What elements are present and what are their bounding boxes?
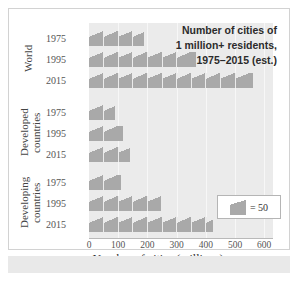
x-axis-line xyxy=(89,238,273,239)
pictograph-divider xyxy=(103,105,104,120)
pictograph-notch xyxy=(104,73,119,79)
group-label-line: World xyxy=(23,27,35,90)
year-label-2015: 2015 xyxy=(40,75,66,86)
pictograph-divider xyxy=(103,73,104,88)
pictograph-notch xyxy=(104,105,119,111)
year-label-2015: 2015 xyxy=(40,219,66,230)
pictograph-notch xyxy=(133,196,148,202)
pictograph-divider xyxy=(191,73,192,88)
pictograph-divider xyxy=(103,31,104,46)
pictograph-notch xyxy=(118,147,133,153)
group-label-world: World xyxy=(23,27,35,90)
year-label-2015: 2015 xyxy=(40,149,66,160)
year-label-1995: 1995 xyxy=(40,128,66,139)
table-row xyxy=(89,217,213,232)
pictograph-divider xyxy=(118,196,119,211)
pictograph-notch xyxy=(206,73,221,79)
pictograph-divider xyxy=(118,217,119,232)
group-label-developing-countries: Developingcountries xyxy=(19,171,42,234)
pictograph-divider xyxy=(118,73,119,88)
pictograph-notch xyxy=(235,73,250,79)
pictograph-notch xyxy=(133,73,148,79)
legend: = 50 xyxy=(217,195,281,219)
pictograph-notch xyxy=(89,147,104,153)
pictograph-divider xyxy=(220,73,221,88)
pictograph-notch xyxy=(162,217,177,223)
chart-title: Number of cities of 1 million+ residents… xyxy=(115,23,277,69)
chart-screenshot: = 50 World197519952015Developedcountries… xyxy=(0,0,298,281)
pictograph-notch xyxy=(191,217,206,223)
pictograph-notch xyxy=(89,126,104,132)
table-row xyxy=(89,147,130,162)
pictograph-notch xyxy=(177,217,192,223)
year-label-1995: 1995 xyxy=(40,198,66,209)
pictograph-divider xyxy=(176,73,177,88)
x-tick-500: 500 xyxy=(228,240,242,250)
year-label-1975: 1975 xyxy=(40,107,66,118)
pictograph-divider xyxy=(103,196,104,211)
pictograph-divider xyxy=(147,196,148,211)
pictograph-notch xyxy=(118,196,133,202)
table-row xyxy=(89,126,123,141)
pictograph-notch xyxy=(89,175,104,181)
table-row xyxy=(89,73,253,88)
pictograph-notch xyxy=(230,200,246,205)
pictograph-divider xyxy=(118,147,119,162)
pictograph-notch xyxy=(104,147,119,153)
pictograph-divider xyxy=(162,73,163,88)
x-tick-300: 300 xyxy=(169,240,183,250)
year-label-1975: 1975 xyxy=(40,33,66,44)
pictograph-notch xyxy=(147,196,162,202)
pictograph-divider xyxy=(132,217,133,232)
pictograph-notch xyxy=(104,175,119,181)
x-tick-100: 100 xyxy=(111,240,125,250)
year-label-1995: 1995 xyxy=(40,54,66,65)
pictograph-notch xyxy=(118,73,133,79)
pictograph-notch xyxy=(89,52,104,58)
bottom-strip xyxy=(8,256,290,273)
pictograph-divider xyxy=(147,73,148,88)
pictograph-divider xyxy=(162,217,163,232)
pictograph-notch xyxy=(177,73,192,79)
group-label-developed-countries: Developedcountries xyxy=(19,101,42,164)
pictograph-divider xyxy=(103,52,104,67)
year-label-1975: 1975 xyxy=(40,177,66,188)
chart-title-line-3: 1975–2015 (est.) xyxy=(115,53,277,68)
pictograph-divider xyxy=(176,217,177,232)
pictograph-notch xyxy=(104,196,119,202)
legend-label: = 50 xyxy=(250,202,268,213)
pictograph-notch xyxy=(220,73,235,79)
pictograph-notch xyxy=(89,73,104,79)
pictograph-notch xyxy=(147,73,162,79)
table-row xyxy=(89,105,115,120)
pictograph-divider xyxy=(132,196,133,211)
pictograph-divider xyxy=(235,73,236,88)
table-row xyxy=(89,196,161,211)
chart-card: = 50 World197519952015Developedcountries… xyxy=(8,8,290,250)
x-tick-200: 200 xyxy=(140,240,154,250)
pictograph-divider xyxy=(103,126,104,141)
pictograph-divider xyxy=(103,175,104,190)
pictograph-divider xyxy=(103,217,104,232)
pictograph-divider xyxy=(191,217,192,232)
pictograph-notch xyxy=(191,73,206,79)
pictograph-divider xyxy=(132,73,133,88)
x-tick-400: 400 xyxy=(199,240,213,250)
pictograph-notch xyxy=(89,196,104,202)
pictograph-notch xyxy=(118,217,133,223)
pictograph-notch xyxy=(104,217,119,223)
pictograph-notch xyxy=(89,217,104,223)
x-tick-600: 600 xyxy=(257,240,271,250)
pictograph-divider xyxy=(205,217,206,232)
chart-title-line-2: 1 million+ residents, xyxy=(115,38,277,53)
chart-title-line-1: Number of cities of xyxy=(115,23,277,38)
legend-pictograph-icon xyxy=(230,200,246,215)
pictograph-notch xyxy=(162,73,177,79)
pictograph-divider xyxy=(103,147,104,162)
pictograph-notch xyxy=(133,217,148,223)
pictograph-divider xyxy=(147,217,148,232)
pictograph-notch xyxy=(104,126,119,132)
x-tick-0: 0 xyxy=(87,240,92,250)
pictograph-notch xyxy=(147,217,162,223)
table-row xyxy=(89,175,121,190)
